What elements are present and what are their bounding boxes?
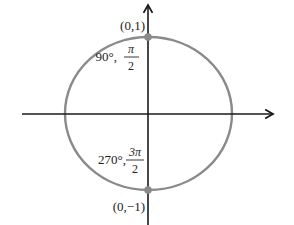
point-bottom	[144, 186, 152, 194]
bottom-radian-denominator: 2	[132, 162, 138, 176]
bottom-radian-numerator: 3π	[128, 145, 142, 159]
point-top	[144, 33, 152, 41]
top-coord-label: (0,1)	[120, 18, 145, 33]
bottom-coord-label: (0,−1)	[113, 199, 145, 214]
top-radian-denominator: 2	[128, 59, 134, 73]
top-radian-numerator: π	[128, 42, 135, 56]
unit-circle-diagram: (0,1) 90°, π 2 270°, 3π 2 (0,−1)	[0, 0, 294, 225]
top-degree-label: 90°,	[96, 49, 117, 64]
bottom-degree-label: 270°,	[98, 152, 126, 167]
